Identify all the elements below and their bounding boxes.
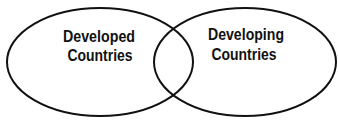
venn-diagram: Developed Countries Developing Countries xyxy=(0,0,338,128)
developed-label-line-2: Countries xyxy=(68,47,133,64)
developing-label-line-1: Developing xyxy=(208,26,284,43)
developing-countries-label: Developing Countries xyxy=(208,26,284,63)
developed-label-line-1: Developed xyxy=(63,28,135,45)
developed-countries-label: Developed Countries xyxy=(63,28,135,64)
developing-label-line-2: Countries xyxy=(212,46,277,63)
